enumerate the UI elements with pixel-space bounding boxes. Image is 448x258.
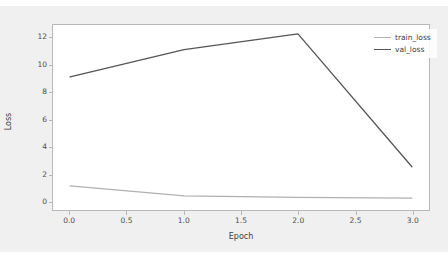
- x-tick-label: 2.5: [350, 217, 362, 225]
- plot-area: train_loss val_loss: [52, 24, 430, 211]
- y-tick-label: 12: [37, 33, 47, 41]
- y-tick-label: 0: [42, 199, 47, 207]
- x-tick-label: 2.0: [292, 217, 304, 225]
- x-tick-label: 0.5: [120, 217, 132, 225]
- x-tick-mark: [184, 211, 185, 215]
- y-axis-label: Loss: [4, 113, 13, 131]
- x-tick-label: 1.5: [235, 217, 247, 225]
- x-tick-mark: [413, 211, 414, 215]
- x-tick-label: 1.0: [178, 217, 190, 225]
- legend-swatch-train-loss: [374, 37, 391, 38]
- y-tick-label: 2: [42, 171, 47, 179]
- x-tick-label: 0.0: [63, 217, 75, 225]
- y-tick-label: 4: [42, 144, 47, 152]
- line-val-loss: [70, 34, 412, 167]
- x-tick-mark: [69, 211, 70, 215]
- y-tick-label: 6: [42, 116, 47, 124]
- legend-label-train-loss: train_loss: [395, 34, 431, 42]
- matplotlib-figure: Loss 024681012 train_loss val_loss: [0, 6, 448, 252]
- legend-label-val-loss: val_loss: [395, 46, 424, 54]
- x-tick-mark: [126, 211, 127, 215]
- y-tick-label: 8: [42, 88, 47, 96]
- y-tick-label: 10: [37, 61, 47, 69]
- x-tick-mark: [298, 211, 299, 215]
- line-train-loss: [70, 186, 412, 198]
- x-axis-label: Epoch: [229, 232, 254, 241]
- x-tick-label: 3.0: [407, 217, 419, 225]
- chart-legend: train_loss val_loss: [369, 29, 437, 58]
- legend-item: val_loss: [374, 45, 431, 54]
- legend-item: train_loss: [374, 33, 431, 42]
- chart-screenshot: Loss 024681012 train_loss val_loss: [0, 0, 448, 258]
- x-tick-mark: [356, 211, 357, 215]
- legend-swatch-val-loss: [374, 49, 391, 50]
- x-tick-mark: [241, 211, 242, 215]
